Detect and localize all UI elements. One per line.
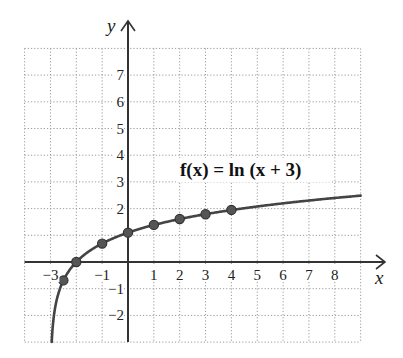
function-label: f(x) = ln (x + 3) xyxy=(180,159,301,181)
x-tick-label: −3 xyxy=(42,267,58,283)
data-point xyxy=(201,210,210,219)
x-tick-label: 1 xyxy=(150,267,158,283)
tick-labels: −3−112345678765432−1−2 xyxy=(41,67,339,323)
data-point xyxy=(98,239,107,248)
data-point xyxy=(59,276,68,285)
data-point xyxy=(149,220,158,229)
data-point xyxy=(72,257,81,266)
x-tick-label: 8 xyxy=(331,267,339,283)
x-tick-label: 5 xyxy=(254,267,262,283)
y-tick-label: 2 xyxy=(117,201,125,217)
y-tick-label: 6 xyxy=(117,94,125,110)
grid-lines xyxy=(25,48,361,342)
y-tick-label: −1 xyxy=(108,281,124,297)
y-tick-label: 3 xyxy=(117,174,125,190)
data-point xyxy=(227,205,236,214)
y-tick-label: 5 xyxy=(117,121,125,137)
x-tick-label: 3 xyxy=(202,267,210,283)
x-tick-label: 6 xyxy=(279,267,287,283)
data-point xyxy=(175,214,184,223)
y-tick-label: 4 xyxy=(117,147,125,163)
y-tick-label: 7 xyxy=(117,67,125,83)
chart: −3−112345678765432−1−2 x y f(x) = ln (x … xyxy=(0,0,403,358)
x-tick-label: 7 xyxy=(305,267,313,283)
x-tick-label: 2 xyxy=(176,267,184,283)
data-point xyxy=(123,228,132,237)
x-tick-label: 4 xyxy=(228,267,236,283)
y-tick-label: −2 xyxy=(108,307,124,323)
y-axis-label: y xyxy=(105,15,116,36)
x-axis-label: x xyxy=(374,267,384,288)
